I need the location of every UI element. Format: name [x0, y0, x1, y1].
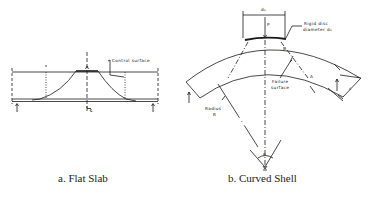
- failure-surface-label-line2: surface: [271, 85, 289, 90]
- angle-theta-label: θ: [263, 152, 266, 157]
- radius-label-line2: R: [213, 112, 216, 117]
- failure-surface-label-line1: Failure: [272, 79, 289, 84]
- radius-label-line1: Radius: [205, 106, 221, 111]
- curved-shell-drawing: [186, 11, 361, 170]
- caption-flat-slab: a. Flat Slab: [58, 172, 108, 184]
- load-p-label: P: [267, 22, 270, 27]
- diagram-canvas: Control surface ℄: [0, 0, 375, 197]
- point-a-label: A: [310, 74, 313, 79]
- disc-width-label: d₀: [261, 7, 266, 12]
- rigid-disc-label-line2: diameter d₀: [303, 27, 332, 32]
- rigid-disc-label-line1: Rigid disc: [304, 21, 328, 26]
- point-b-label: B: [283, 46, 286, 51]
- caption-curved-shell: b. Curved Shell: [228, 172, 297, 184]
- thickness-c-label: c: [349, 86, 352, 91]
- centerline-label: ℄: [89, 108, 93, 113]
- control-surface-label: Control surface: [112, 58, 150, 63]
